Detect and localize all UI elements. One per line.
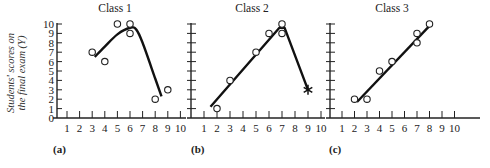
x-tick-label: 6 <box>402 122 408 134</box>
title-class-3: Class 3 <box>352 2 432 14</box>
data-point <box>152 96 158 102</box>
x-tick-label: 9 <box>165 122 171 134</box>
y-axis-label-line2: the final exam (Y) <box>16 13 27 133</box>
x-tick-label: 10 <box>316 122 328 134</box>
x-tick-label: 4 <box>240 122 246 134</box>
data-point <box>426 21 432 27</box>
fit-line <box>211 28 309 107</box>
panel-label-b: (b) <box>191 143 204 155</box>
data-point <box>127 30 133 36</box>
panel-2: 12345678910 <box>187 21 327 134</box>
x-tick-label: 3 <box>227 122 233 134</box>
chart-canvas: 1234567891001234567891012345678910123456… <box>0 0 490 168</box>
data-point <box>279 21 285 27</box>
data-point <box>214 105 220 111</box>
data-point <box>414 40 420 46</box>
data-point <box>102 58 108 64</box>
data-point <box>364 96 370 102</box>
x-tick-label: 5 <box>253 122 259 134</box>
data-point <box>253 49 259 55</box>
title-class-1: Class 1 <box>75 2 155 14</box>
x-tick-label: 1 <box>64 122 70 134</box>
y-tick-label: 10 <box>43 18 55 30</box>
panel-label-c: (c) <box>329 143 341 155</box>
data-point <box>351 96 357 102</box>
x-tick-label: 8 <box>292 122 298 134</box>
outlier-asterisk-icon <box>304 85 313 95</box>
data-point <box>266 30 272 36</box>
x-tick-label: 5 <box>389 122 395 134</box>
x-tick-label: 4 <box>102 122 108 134</box>
x-tick-label: 8 <box>427 122 433 134</box>
x-tick-label: 3 <box>89 122 95 134</box>
x-tick-label: 9 <box>439 122 445 134</box>
data-point <box>227 77 233 83</box>
x-tick-label: 7 <box>140 122 146 134</box>
data-point <box>376 68 382 74</box>
x-tick-label: 10 <box>449 122 461 134</box>
data-point <box>389 58 395 64</box>
x-tick-label: 7 <box>279 122 285 134</box>
data-point <box>165 87 171 93</box>
x-tick-label: 4 <box>377 122 383 134</box>
x-tick-label: 10 <box>175 122 187 134</box>
data-point <box>114 21 120 27</box>
data-point <box>414 30 420 36</box>
data-point <box>89 49 95 55</box>
x-tick-label: 1 <box>339 122 345 134</box>
panel-3: 12345678910 <box>326 21 480 134</box>
data-point <box>127 21 133 27</box>
title-class-2: Class 2 <box>212 2 292 14</box>
y-axis-label-line1: Students' scores on <box>5 13 16 133</box>
x-tick-label: 3 <box>364 122 370 134</box>
x-tick-label: 9 <box>305 122 311 134</box>
panel-label-a: (a) <box>53 143 66 155</box>
x-tick-label: 2 <box>214 122 220 134</box>
panel-1: 12345678910012345678910 <box>43 18 186 134</box>
x-tick-label: 6 <box>266 122 272 134</box>
x-tick-label: 6 <box>127 122 133 134</box>
x-tick-label: 2 <box>77 122 83 134</box>
data-point <box>279 30 285 36</box>
x-tick-label: 5 <box>115 122 121 134</box>
x-tick-label: 2 <box>352 122 358 134</box>
y-axis-label: Students' scores on the final exam (Y) <box>5 13 27 133</box>
svg-text:0: 0 <box>49 112 55 124</box>
x-tick-label: 8 <box>152 122 158 134</box>
x-tick-label: 7 <box>414 122 420 134</box>
x-tick-label: 1 <box>201 122 207 134</box>
